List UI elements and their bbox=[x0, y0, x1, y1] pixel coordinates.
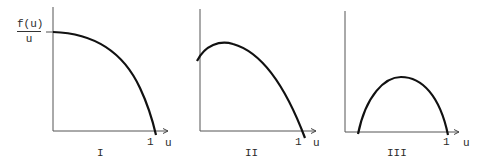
x-tick-one: 1 bbox=[443, 137, 450, 148]
panel-label-i: I bbox=[97, 148, 104, 159]
x-axis-label: u bbox=[165, 138, 172, 149]
curve-i bbox=[53, 32, 156, 135]
y-label-numerator: f(u) bbox=[17, 18, 41, 32]
y-axis-label: f(u) u bbox=[17, 18, 41, 45]
figure-canvas bbox=[0, 0, 483, 167]
panel-i bbox=[46, 7, 168, 135]
panel-iii bbox=[345, 11, 459, 135]
x-axis-label: u bbox=[313, 138, 320, 149]
x-tick-one: 1 bbox=[295, 137, 302, 148]
panel-label-ii: II bbox=[245, 148, 258, 159]
y-label-denominator: u bbox=[17, 32, 41, 45]
x-axis-label: u bbox=[463, 138, 470, 149]
panel-ii bbox=[197, 9, 316, 138]
panel-label-iii: III bbox=[387, 148, 407, 159]
curve-iii bbox=[358, 77, 448, 135]
x-tick-one: 1 bbox=[147, 137, 154, 148]
curve-ii bbox=[197, 43, 305, 138]
